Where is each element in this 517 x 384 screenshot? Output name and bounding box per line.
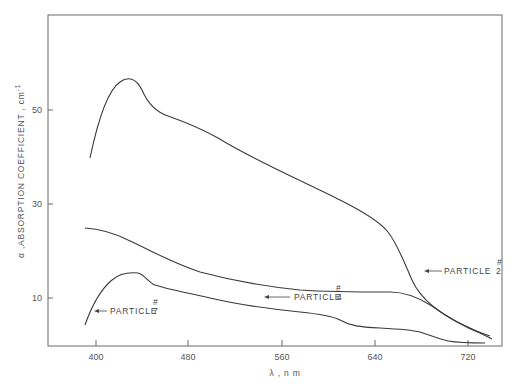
absorption-chart: 50 30 10 α ,ABSORPTION COEFFICIENT , cm-…	[0, 0, 517, 384]
svg-text:4: 4	[337, 292, 343, 302]
svg-text:2: 2	[496, 266, 502, 276]
series-particle-4	[85, 228, 492, 339]
y-tick-10: 10	[32, 293, 42, 303]
svg-text:PARTICLE: PARTICLE	[110, 306, 157, 316]
svg-text:7: 7	[153, 306, 159, 316]
plot-frame	[48, 15, 502, 346]
x-tick-720: 720	[460, 352, 475, 362]
x-tick-560: 560	[274, 352, 289, 362]
label-particle-2: PARTICLE # 2	[424, 257, 503, 276]
x-axis-title: λ , n m	[269, 368, 300, 378]
svg-text:PARTICLE: PARTICLE	[444, 266, 491, 276]
x-tick-640: 640	[367, 352, 382, 362]
label-particle-7: PARTICLE # 7	[94, 297, 159, 316]
y-axis-title: α ,ABSORPTION COEFFICIENT , cm-1	[14, 84, 26, 258]
label-particle-4: PARTICLE # 4	[264, 283, 343, 302]
y-tick-50: 50	[32, 105, 42, 115]
x-tick-400: 400	[88, 352, 103, 362]
y-axis: 50 30 10 α ,ABSORPTION COEFFICIENT , cm-…	[14, 84, 53, 303]
x-tick-480: 480	[180, 352, 195, 362]
svg-text:PARTICLE: PARTICLE	[294, 292, 341, 302]
y-tick-30: 30	[32, 199, 42, 209]
